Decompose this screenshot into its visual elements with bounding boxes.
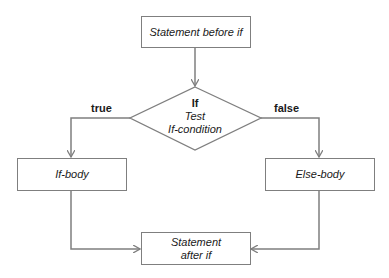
true-branch-label: true [91, 102, 112, 114]
node-statement-after-if-line2: after if [181, 249, 212, 262]
arrow-true-branch [71, 118, 130, 157]
decision-condition: If-condition [155, 123, 235, 136]
node-else-body-label: Else-body [296, 168, 345, 181]
node-statement-after-if-line1: Statement [171, 236, 221, 249]
node-if-body-label: If-body [55, 168, 89, 181]
false-branch-label: false [274, 102, 299, 114]
decision-node-text: If Test If-condition [155, 97, 235, 136]
node-statement-after-if: Statement after if [141, 232, 251, 265]
decision-test: Test [155, 110, 235, 123]
node-statement-before-if-label: Statement before if [150, 26, 243, 39]
node-else-body: Else-body [265, 158, 375, 191]
arrow-ifbody-to-end [71, 190, 140, 249]
arrow-elsebody-to-end [251, 190, 319, 249]
node-if-body: If-body [17, 158, 127, 191]
decision-keyword: If [155, 97, 235, 110]
node-statement-before-if: Statement before if [141, 16, 251, 48]
arrow-false-branch [261, 118, 319, 157]
